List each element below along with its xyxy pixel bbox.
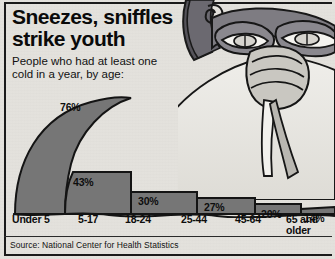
source-note: Source: National Center for Health Stati… bbox=[10, 240, 179, 250]
bar-chart-svg bbox=[5, 88, 335, 218]
x-label-25-44: 25-44 bbox=[181, 214, 207, 225]
frame-bottom-rule bbox=[4, 254, 332, 256]
x-label-65-older: 65 and older bbox=[286, 214, 318, 236]
bar-value-25-44: 27% bbox=[204, 201, 224, 213]
infographic-page: Sneezes, sniffles strike youth People wh… bbox=[0, 0, 335, 259]
frame-top-rule bbox=[4, 2, 332, 4]
x-label-18-24: 18-24 bbox=[125, 214, 151, 225]
bar-chart: 76% 43% 30% 27% 20% 14% bbox=[5, 88, 335, 218]
bar-value-under-5: 76% bbox=[60, 101, 80, 113]
bar-value-5-17: 43% bbox=[73, 176, 93, 188]
source-divider-rule bbox=[4, 236, 332, 237]
x-label-under-5: Under 5 bbox=[12, 214, 50, 225]
x-label-5-17: 5-17 bbox=[78, 214, 98, 225]
x-label-45-64: 45-64 bbox=[235, 214, 261, 225]
headline: Sneezes, sniffles strike youth bbox=[12, 6, 227, 49]
bar-value-18-24: 30% bbox=[138, 195, 158, 207]
subheadline: People who had at least one cold in a ye… bbox=[12, 55, 222, 81]
